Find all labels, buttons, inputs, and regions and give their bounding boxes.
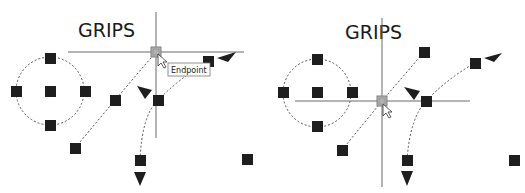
grip-square[interactable] [347, 87, 358, 98]
cursor-arrow-icon [158, 54, 167, 68]
grip-square[interactable] [45, 120, 56, 131]
grips-diagram: GRIPS Endpoint GR [0, 0, 525, 193]
triangle-grip-icon[interactable] [217, 52, 236, 62]
grip-square[interactable] [80, 86, 91, 97]
grip-square[interactable] [153, 95, 164, 106]
grip-square[interactable] [470, 58, 481, 69]
grip-square[interactable] [419, 47, 430, 58]
grip-square[interactable] [11, 86, 22, 97]
tooltip-text: Endpoint [171, 66, 207, 75]
grip-square[interactable] [421, 96, 432, 107]
grip-square[interactable] [278, 87, 289, 98]
grip-square[interactable] [45, 53, 56, 64]
panel-after: GRIPS [278, 18, 520, 187]
grip-square[interactable] [70, 143, 81, 154]
panel-before: GRIPS Endpoint [11, 12, 253, 186]
grip-square[interactable] [312, 121, 323, 132]
grip-square[interactable] [509, 155, 520, 166]
diagram-canvas: GRIPS Endpoint GR [0, 0, 525, 193]
grip-square[interactable] [337, 145, 348, 156]
dashed-arc [407, 63, 475, 160]
grip-square[interactable] [312, 54, 323, 65]
grip-square[interactable] [402, 155, 413, 166]
triangle-grip-icon[interactable] [484, 53, 502, 62]
panel-title: GRIPS [78, 19, 135, 41]
triangle-grip-icon[interactable] [401, 171, 413, 186]
triangle-grip-icon[interactable] [134, 172, 146, 186]
grip-square[interactable] [110, 95, 121, 106]
grip-square[interactable] [312, 87, 323, 98]
triangle-grip-icon[interactable] [404, 87, 420, 100]
panel-title: GRIPS [345, 21, 402, 43]
grip-square[interactable] [242, 154, 253, 165]
grip-square[interactable] [135, 155, 146, 166]
grip-square[interactable] [45, 86, 56, 97]
triangle-grip-icon[interactable] [137, 86, 152, 99]
selected-grip[interactable] [377, 96, 387, 106]
